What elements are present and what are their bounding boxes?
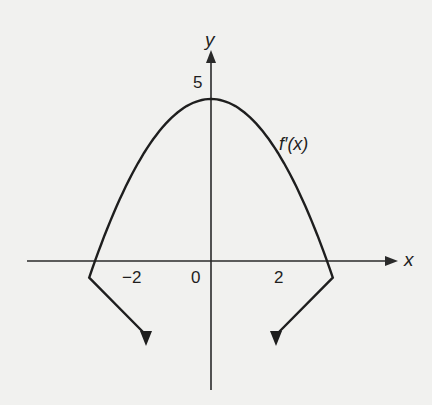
chart-area: y x 5 0 −2 2 f′(x) <box>0 0 432 405</box>
y-tick-5: 5 <box>193 74 202 91</box>
x-tick-2: 2 <box>274 269 283 286</box>
curve-right-arrow-icon <box>270 331 282 346</box>
curve-left-arrow-icon <box>140 331 152 346</box>
chart-svg <box>0 0 432 405</box>
y-axis-arrow-icon <box>206 50 216 63</box>
curve-label: f′(x) <box>279 135 308 153</box>
x-axis-arrow-icon <box>385 256 398 266</box>
x-axis-label: x <box>404 250 414 269</box>
origin-label: 0 <box>191 269 200 286</box>
x-tick-neg2: −2 <box>122 269 141 286</box>
y-axis-label: y <box>205 30 215 49</box>
